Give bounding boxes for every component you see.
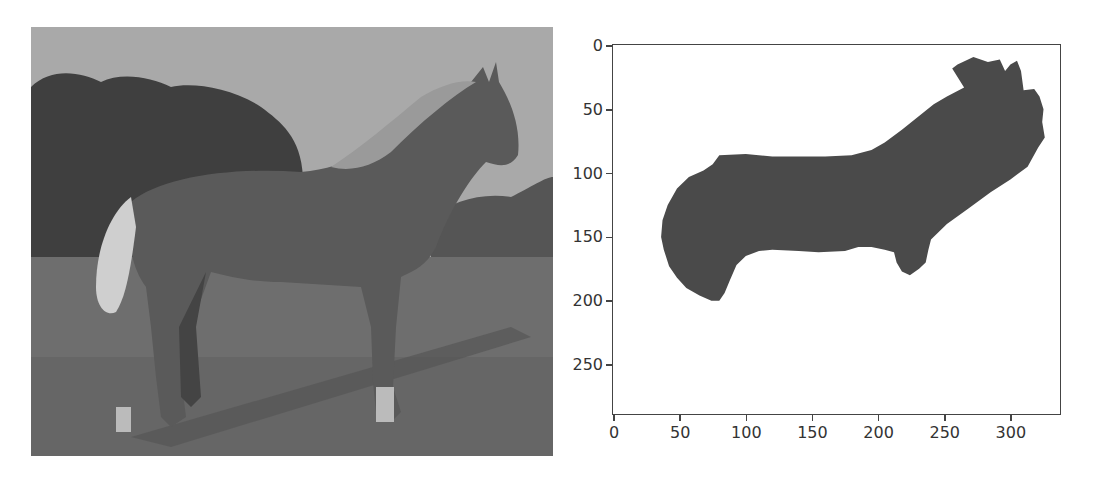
x-tick-label: 300 bbox=[971, 423, 1051, 442]
y-tick-label: 150 bbox=[572, 227, 603, 246]
x-tick-mark bbox=[944, 415, 946, 421]
x-tick-mark bbox=[746, 415, 748, 421]
y-tick-mark bbox=[606, 300, 612, 302]
segmentation-mask bbox=[613, 45, 1059, 413]
y-tick-mark bbox=[606, 173, 612, 175]
x-tick-mark bbox=[613, 415, 615, 421]
horse-photo-icon bbox=[31, 27, 553, 456]
horse-photo bbox=[31, 27, 553, 456]
y-tick-mark bbox=[606, 364, 612, 366]
y-tick-mark bbox=[606, 237, 612, 239]
y-tick-label: 50 bbox=[583, 100, 603, 119]
x-tick-mark bbox=[812, 415, 814, 421]
x-tick-mark bbox=[1010, 415, 1012, 421]
y-tick-label: 250 bbox=[572, 355, 603, 374]
y-tick-label: 200 bbox=[572, 291, 603, 310]
horse-mask-region bbox=[661, 57, 1045, 301]
plot-axes bbox=[612, 44, 1061, 415]
x-tick-mark bbox=[679, 415, 681, 421]
y-tick-mark bbox=[606, 109, 612, 111]
y-tick-label: 100 bbox=[572, 164, 603, 183]
y-tick-mark bbox=[606, 45, 612, 47]
x-tick-mark bbox=[878, 415, 880, 421]
y-tick-label: 0 bbox=[593, 36, 603, 55]
